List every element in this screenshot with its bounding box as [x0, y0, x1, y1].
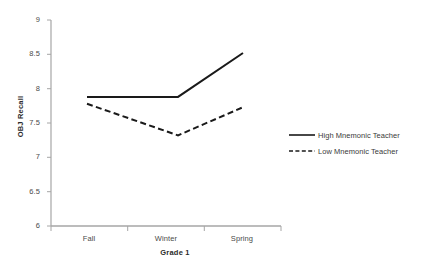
x-tick-label-fall: Fall	[59, 234, 119, 243]
legend-label: High Mnemonic Teacher	[318, 131, 400, 140]
x-axis-title: Grade 1	[135, 248, 215, 257]
solid-line-icon	[289, 130, 315, 140]
x-tick-label-spring: Spring	[212, 234, 272, 243]
dashed-line-icon	[289, 146, 315, 156]
y-axis-title: OBJ Recall	[16, 77, 25, 157]
chart-legend: High Mnemonic Teacher Low Mnemonic Teach…	[289, 128, 419, 160]
legend-item-high-mnemonic-teacher: High Mnemonic Teacher	[289, 128, 419, 142]
legend-item-low-mnemonic-teacher: Low Mnemonic Teacher	[289, 144, 419, 158]
y-tick-label: 6	[14, 221, 40, 230]
y-tick-label: 8.5	[14, 49, 40, 58]
legend-label: Low Mnemonic Teacher	[318, 147, 398, 156]
series-line-low-mnemonic-teacher	[87, 104, 243, 136]
y-tick-label: 9	[14, 15, 40, 24]
series-line-high-mnemonic-teacher	[87, 53, 243, 97]
series-layer	[87, 53, 243, 135]
y-tick-label: 6.5	[14, 187, 40, 196]
chart-figure: 9 8.5 8 7.5 7 6.5 6 Fall Winter Spring O…	[0, 0, 424, 272]
x-tick-label-winter: Winter	[136, 234, 196, 243]
